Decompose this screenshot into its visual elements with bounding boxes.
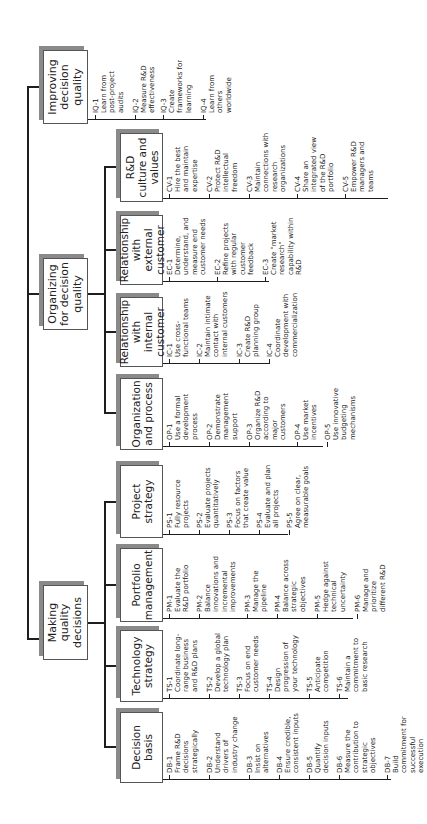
item-ts-1: TS-1Coordinate long- range business and …	[166, 619, 206, 699]
box-relationship-external-customer: Relationship with external customer	[120, 215, 163, 285]
item-pm-6: PM-6Manage and prioritize different R&D	[354, 509, 387, 619]
box-project-strategy: Project strategy	[120, 465, 163, 538]
item-pm-5: PM-5Hedge against technical uncertainty	[314, 509, 354, 619]
item-ic-2: IC-2Maintain intimate contact with inter…	[196, 244, 236, 364]
label-ps: Project strategy	[130, 468, 154, 535]
connector-pm	[104, 584, 120, 586]
item-db-6: DB-6Measure the contribution to strategi…	[336, 700, 384, 780]
subspine-making	[104, 501, 106, 748]
item-iq-1: IQ-1Learn from post-project audits	[92, 20, 132, 120]
connector-making-out	[88, 622, 105, 624]
label-db: Decision basis	[130, 715, 154, 780]
label-ec: Relationship with external customer	[118, 218, 166, 282]
items-db: DB-1Frame R&D decisions strategically DB…	[166, 700, 425, 780]
item-iq-2: IQ-2Measure R&D effectiveness	[132, 20, 160, 120]
label-pm: Portfolio management	[130, 550, 154, 620]
item-ts-5: TS-5Anticipate competition	[306, 619, 336, 699]
item-db-4: DB-4Ensure credible, consistent inputs	[276, 700, 306, 780]
label-op: Organization and process	[130, 380, 154, 447]
box-rd-culture-and-values: R&D culture and values	[120, 133, 163, 202]
items-pm: PM-1Evaluate the R&D portfolio PM-2Balan…	[166, 509, 387, 619]
item-ts-4: TS-4Design progression of your technolog…	[266, 619, 306, 699]
item-db-7: DB-7Build commitment for successful exec…	[384, 700, 425, 780]
connector-making	[27, 638, 43, 640]
item-ts-2: TS-2Develop a global technology plan	[206, 619, 236, 699]
connector-improving	[27, 86, 43, 88]
label-ic: Relationship with internal customer	[118, 300, 166, 364]
box-organizing-for-decision-quality: Organizing for decision quality	[43, 258, 88, 330]
item-db-2: DB-2Understand drivers of industry chang…	[206, 700, 246, 780]
item-db-5: DB-5Quantify decision inputs	[306, 700, 336, 780]
decision-quality-tree: Improving decision quality IQ-1Learn fro…	[0, 0, 427, 824]
label-making: Making quality decisions	[47, 588, 85, 657]
connector-ts	[104, 665, 120, 667]
connector-op	[104, 412, 120, 414]
subspine-organizing	[104, 166, 106, 414]
label-improving: Improving decision quality	[47, 53, 85, 121]
item-db-3: DB-3Insist on alternatives	[246, 700, 276, 780]
root-spine	[27, 87, 29, 640]
label-ts: Technology strategy	[130, 633, 154, 699]
items-ts: TS-1Coordinate long- range business and …	[166, 619, 369, 699]
item-pm-1: PM-1Evaluate the R&D portfolio	[166, 509, 196, 619]
item-ic-1: IC-1Use cross- functional teams	[166, 244, 196, 364]
box-organization-and-process: Organization and process	[120, 378, 163, 450]
item-ic-4: IC-4Coordinate development with commerci…	[266, 244, 299, 364]
item-ts-3: TS-3Focus on end customer needs	[236, 619, 266, 699]
connector-organizing-out	[88, 293, 105, 295]
label-organizing: Organizing for decision quality	[47, 261, 85, 327]
item-pm-3: PM-3Manage the pipeline	[244, 509, 274, 619]
item-cv-5: CV-5Empower R&D managers and teams	[342, 89, 375, 199]
box-improving-decision-quality: Improving decision quality	[43, 50, 88, 124]
label-cv: R&D culture and values	[124, 136, 160, 199]
item-op-5: OP-5Use innovative budgeting mechanisms	[324, 347, 357, 447]
box-making-quality-decisions: Making quality decisions	[43, 585, 88, 660]
item-db-1: DB-1Frame R&D decisions strategically	[166, 700, 206, 780]
connector-ps	[104, 501, 120, 503]
box-technology-strategy: Technology strategy	[120, 630, 163, 702]
item-ts-6: TS-6Maintain a commitment to basic resea…	[336, 619, 369, 699]
connector-cv	[104, 166, 120, 168]
item-ic-3: IC-3Create R&D planning group	[236, 244, 266, 364]
box-portfolio-management: Portfolio management	[120, 548, 163, 622]
box-decision-basis: Decision basis	[120, 712, 163, 783]
connector-db	[104, 746, 120, 748]
connector-organizing	[27, 293, 43, 295]
item-pm-4: PM-4Balance across strategic objectives	[274, 509, 314, 619]
box-relationship-internal-customer: Relationship with internal customer	[120, 297, 163, 367]
item-pm-2: PM-2Balance innovations and incremental …	[196, 509, 244, 619]
items-ic: IC-1Use cross- functional teams IC-2Main…	[166, 244, 299, 364]
